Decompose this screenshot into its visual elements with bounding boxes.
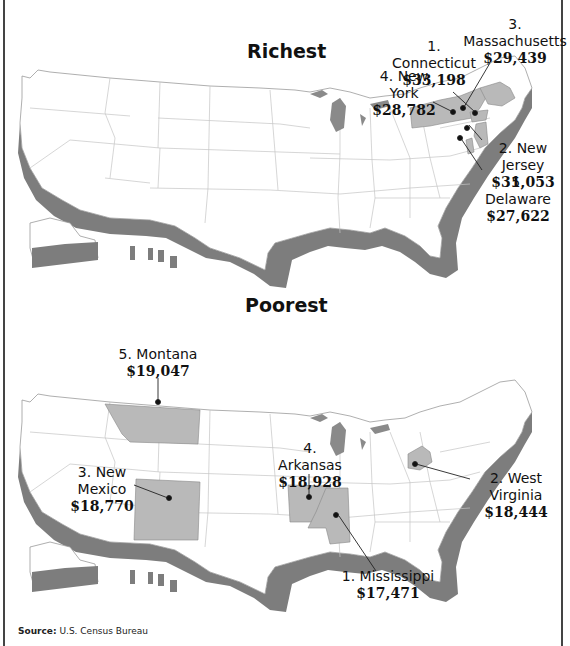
- richest-title: Richest: [247, 40, 326, 62]
- source-note: Source: U.S. Census Bureau: [18, 626, 148, 636]
- state-name: 4. Arkansas: [270, 440, 350, 474]
- state-value: $27,622: [480, 208, 556, 225]
- state-value: $18,770: [66, 498, 138, 515]
- state-value: $18,444: [466, 504, 566, 521]
- state-name: 2. West Virginia: [466, 470, 566, 504]
- state-value: $19,047: [115, 363, 201, 380]
- state-value: $18,928: [270, 474, 350, 491]
- state-name: 4. New York: [366, 68, 442, 102]
- map-richest: [18, 56, 532, 288]
- source-label: Source:: [18, 626, 57, 636]
- label-new-york: 4. New York $28,782: [366, 68, 442, 119]
- label-west-virginia: 2. West Virginia $18,444: [466, 470, 566, 521]
- maps-graphic: [0, 0, 570, 646]
- state-name: 3. New Mexico: [66, 464, 138, 498]
- state-name: 2. New Jersey: [480, 140, 566, 174]
- label-arkansas: 4. Arkansas $18,928: [270, 440, 350, 491]
- state-name: 1. Connecticut: [384, 38, 484, 72]
- label-montana: 5. Montana $19,047: [115, 346, 201, 380]
- label-new-mexico: 3. New Mexico $18,770: [66, 464, 138, 515]
- source-text: U.S. Census Bureau: [59, 626, 148, 636]
- state-value: $28,782: [366, 102, 442, 119]
- state-name: 5. Delaware: [480, 174, 556, 208]
- state-name: 1. Mississippi: [340, 568, 436, 585]
- label-mississippi: 1. Mississippi $17,471: [340, 568, 436, 602]
- state-value: $17,471: [340, 585, 436, 602]
- poorest-title: Poorest: [245, 294, 328, 316]
- label-delaware: 5. Delaware $27,622: [480, 174, 556, 225]
- state-name: 5. Montana: [115, 346, 201, 363]
